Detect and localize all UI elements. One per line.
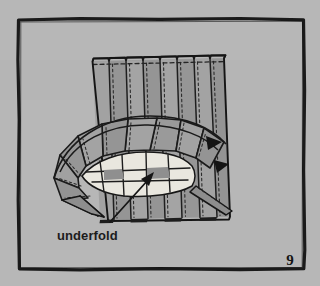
figure-page: underfold 9 [0, 0, 320, 286]
illustration-canvas: underfold 9 [0, 0, 320, 286]
page-number: 9 [286, 252, 294, 268]
underfold-caption: underfold [57, 228, 118, 243]
